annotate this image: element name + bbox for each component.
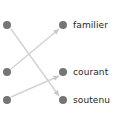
target-label-familier: familier (73, 20, 108, 30)
target-label-courant: courant (73, 67, 108, 77)
target-node-courant[interactable] (59, 68, 67, 76)
source-node-2[interactable] (3, 68, 11, 76)
target-node-soutenu[interactable] (59, 96, 67, 104)
edges-group (11, 29, 59, 97)
target-label-soutenu: soutenu (73, 95, 110, 105)
target-node-familier[interactable] (59, 21, 67, 29)
source-node-1[interactable] (3, 21, 11, 29)
source-node-3[interactable] (3, 96, 11, 104)
diagram-canvas: familier courant soutenu (0, 0, 120, 114)
